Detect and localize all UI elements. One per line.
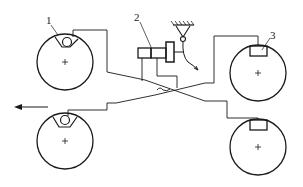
brake-pedal xyxy=(171,21,198,70)
direction-arrow xyxy=(14,104,48,110)
caliper-front-left xyxy=(55,37,78,47)
wheel-top-right xyxy=(230,45,286,101)
caliper-rear-right xyxy=(250,46,267,56)
wheel-top-left xyxy=(37,34,93,90)
label-2: 2 xyxy=(134,11,151,47)
wheel-bottom-left xyxy=(37,113,93,169)
brake-diagram: 1 2 3 xyxy=(0,0,303,187)
wheel-bottom-right xyxy=(230,119,286,175)
svg-text:2: 2 xyxy=(134,11,140,23)
svg-text:3: 3 xyxy=(270,29,276,41)
svg-text:1: 1 xyxy=(46,14,52,26)
label-1: 1 xyxy=(46,14,58,35)
caliper-rear-left xyxy=(53,116,77,128)
master-cylinder xyxy=(138,42,183,62)
caliper-front-right xyxy=(250,120,267,130)
